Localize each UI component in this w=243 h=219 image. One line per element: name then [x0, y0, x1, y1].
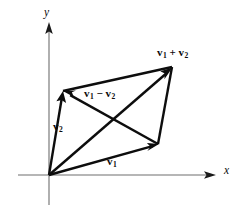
diagram-canvas	[0, 0, 243, 219]
label-diff-sub2: 2	[111, 92, 115, 101]
vector-diff-shaft	[70, 95, 158, 144]
label-v1-plus-v2: v1+v2	[157, 47, 188, 60]
label-diff-operator: −	[96, 87, 102, 99]
label-diff-base: v	[84, 87, 90, 99]
label-sum-sub1: 1	[163, 51, 167, 60]
label-v2-base: v	[53, 120, 59, 132]
vector-diagram-figure: v1+v2 v1−v2 v2 v1 x y	[0, 0, 243, 219]
parallelogram-sides	[63, 67, 172, 144]
label-v2-sub: 2	[59, 125, 63, 134]
side-v2tip-to-sum	[63, 67, 172, 91]
label-x-axis: x	[224, 165, 229, 177]
label-sum-sub2: 2	[184, 51, 188, 60]
label-v2: v2	[53, 121, 63, 134]
vector-v2-shaft	[49, 98, 62, 176]
label-diff-sub1: 1	[90, 92, 94, 101]
label-sum-operator: +	[169, 46, 175, 58]
label-v1: v1	[107, 156, 117, 169]
vector-v1	[49, 143, 159, 175]
label-y-axis: y	[44, 7, 49, 19]
label-v1-sub: 1	[113, 160, 117, 169]
label-sum-base: v	[157, 46, 163, 58]
label-v1-base: v	[107, 155, 113, 167]
label-v1-minus-v2: v1−v2	[84, 88, 115, 101]
